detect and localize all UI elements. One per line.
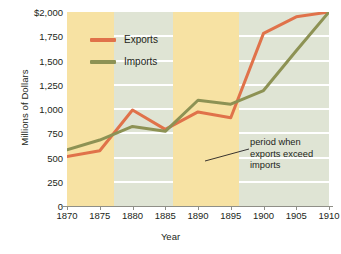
x-tick-label: 1870 xyxy=(56,210,77,221)
y-tick-label: 0 xyxy=(10,201,63,212)
x-tick-label: 1895 xyxy=(220,210,241,221)
x-tick-label: 1910 xyxy=(318,210,339,221)
x-tick-label: 1890 xyxy=(187,210,208,221)
annotation-exports-exceed-imports: period whenexports exceedimports xyxy=(250,137,336,172)
annotation-line: exports exceed xyxy=(250,149,336,161)
x-tick-label: 1880 xyxy=(122,210,143,221)
legend-label: Imports xyxy=(124,56,157,67)
y-tick-label: 1,250 xyxy=(10,79,63,90)
y-tick-label: 1,000 xyxy=(10,104,63,115)
legend-swatch-icon xyxy=(90,60,116,64)
y-tick-label: 1,500 xyxy=(10,55,63,66)
x-tick-label: 1885 xyxy=(155,210,176,221)
y-tick-label: $2,000 xyxy=(10,7,63,18)
x-tick-label: 1905 xyxy=(286,210,307,221)
legend-item-exports: Exports xyxy=(90,32,158,47)
y-tick-label: 750 xyxy=(10,128,63,139)
legend-swatch-icon xyxy=(90,38,116,42)
y-axis-tick-labels: $2,0001,7501,5001,2501,0007505002500 xyxy=(10,0,63,210)
exports-imports-line-chart: Millions of Dollars $2,0001,7501,5001,25… xyxy=(0,0,341,254)
legend: ExportsImports xyxy=(90,32,158,76)
annotation-line: imports xyxy=(250,160,336,172)
y-tick-label: 500 xyxy=(10,152,63,163)
annotation-line: period when xyxy=(250,137,336,149)
legend-item-imports: Imports xyxy=(90,54,158,69)
x-axis-line xyxy=(61,206,333,207)
annotation-leader-line xyxy=(204,148,250,162)
y-tick-label: 250 xyxy=(10,176,63,187)
x-tick-label: 1875 xyxy=(89,210,110,221)
x-tick-label: 1900 xyxy=(253,210,274,221)
y-tick-label: 1,750 xyxy=(10,31,63,42)
x-axis-title: Year xyxy=(0,231,341,242)
legend-label: Exports xyxy=(124,34,158,45)
